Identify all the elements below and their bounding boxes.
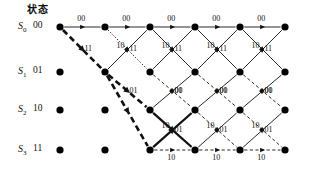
edge-label: 00 xyxy=(219,87,227,95)
edge-label: 11 xyxy=(174,45,182,53)
state-bits-s0: 00 xyxy=(33,21,43,31)
trellis-node[interactable] xyxy=(236,146,243,153)
trellis-node[interactable] xyxy=(191,106,198,113)
trellis-node[interactable] xyxy=(146,68,153,75)
edge-arrowhead xyxy=(123,107,129,114)
edge-label: 01 xyxy=(264,126,272,134)
edge-label: 00 xyxy=(77,15,85,23)
trellis-node[interactable] xyxy=(281,146,288,153)
edge-label: 10 xyxy=(161,122,169,130)
trellis-node[interactable] xyxy=(56,23,63,30)
edge-arrowhead xyxy=(170,25,175,30)
state-subscript: 1 xyxy=(23,71,27,79)
trellis-node[interactable] xyxy=(191,23,198,30)
edge-arrowhead xyxy=(80,25,85,30)
state-bits-s1: 01 xyxy=(33,66,43,76)
edge-label: 01 xyxy=(129,87,137,95)
edge-label: 11 xyxy=(219,45,227,53)
state-subscript: 0 xyxy=(23,26,27,34)
edge-arrowhead xyxy=(215,25,220,30)
edge-label: 10 xyxy=(212,154,220,162)
edge-arrowhead xyxy=(260,25,265,30)
state-subscript: 3 xyxy=(23,149,27,157)
edge-label: 11 xyxy=(264,45,272,53)
edge-label: 00 xyxy=(257,15,265,23)
trellis-node[interactable] xyxy=(101,146,108,153)
trellis-node[interactable] xyxy=(101,68,108,75)
edge-label: 00 xyxy=(174,87,182,95)
edge-label: 00 xyxy=(122,15,130,23)
trellis-diagram: 状态 S000S101S210S311 00000000001111111111… xyxy=(0,0,315,184)
edge-arrowhead xyxy=(215,148,220,153)
edge-label: 10 xyxy=(206,42,214,50)
trellis-node[interactable] xyxy=(56,68,63,75)
edge-label: 10 xyxy=(251,42,259,50)
edge-label: 10 xyxy=(167,154,175,162)
state-name-s1: S1 xyxy=(18,66,27,79)
edge-label: 10 xyxy=(251,122,259,130)
edge-label: 10 xyxy=(161,42,169,50)
edge-label: 10 xyxy=(206,122,214,130)
edge-arrowhead xyxy=(125,25,130,30)
trellis-node[interactable] xyxy=(146,23,153,30)
edge-label: 00 xyxy=(212,15,220,23)
trellis-node[interactable] xyxy=(56,106,63,113)
edge-arrowhead xyxy=(170,148,175,153)
trellis-node[interactable] xyxy=(56,146,63,153)
trellis-node[interactable] xyxy=(236,68,243,75)
trellis-node[interactable] xyxy=(146,106,153,113)
state-bits-s2: 10 xyxy=(33,104,43,114)
edge-arrowhead xyxy=(260,148,265,153)
trellis-node[interactable] xyxy=(101,106,108,113)
state-name-s0: S0 xyxy=(18,21,27,34)
edge-label: 00 xyxy=(167,15,175,23)
state-name-s2: S2 xyxy=(18,104,27,117)
state-name-s3: S3 xyxy=(18,144,27,157)
edge-label: 11 xyxy=(84,45,92,53)
state-bits-s3: 11 xyxy=(33,144,42,154)
edge-label: 10 xyxy=(116,42,124,50)
diagram-header: 状态 xyxy=(27,5,48,15)
edge-layer xyxy=(63,25,282,153)
edge-label: 00 xyxy=(264,87,272,95)
trellis-node[interactable] xyxy=(236,106,243,113)
trellis-node[interactable] xyxy=(281,68,288,75)
edge-label: 10 xyxy=(257,154,265,162)
trellis-node[interactable] xyxy=(191,68,198,75)
trellis-node[interactable] xyxy=(191,146,198,153)
edge-label: 01 xyxy=(174,126,182,134)
trellis-node[interactable] xyxy=(146,146,153,153)
edge-label: 11 xyxy=(129,45,137,53)
trellis-node[interactable] xyxy=(236,23,243,30)
trellis-node[interactable] xyxy=(101,23,108,30)
trellis-node[interactable] xyxy=(281,23,288,30)
edge-label: 01 xyxy=(219,126,227,134)
trellis-node[interactable] xyxy=(281,106,288,113)
state-subscript: 2 xyxy=(23,109,27,117)
